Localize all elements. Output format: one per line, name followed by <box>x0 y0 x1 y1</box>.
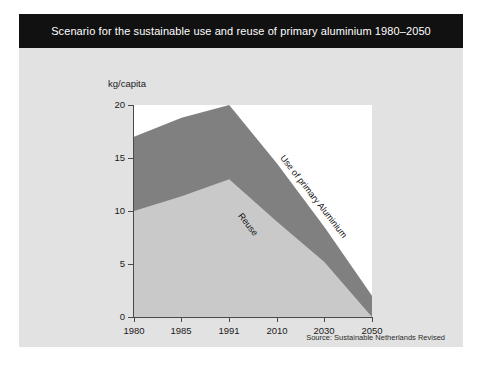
y-tick-mark-0 <box>128 317 133 318</box>
y-tick-mark-15 <box>128 158 133 159</box>
area-chart-svg <box>134 105 372 317</box>
x-axis-line <box>133 317 373 318</box>
x-tick-label-1991: 1991 <box>209 325 249 336</box>
y-tick-label-15: 15 <box>99 152 125 163</box>
x-tick-label-1980: 1980 <box>114 325 154 336</box>
x-tick-label-1985: 1985 <box>161 325 201 336</box>
y-axis-title: kg/capita <box>108 78 146 89</box>
page-title: Scenario for the sustainable use and reu… <box>51 25 431 37</box>
figure-card: Scenario for the sustainable use and reu… <box>19 14 463 347</box>
x-tick-mark-1991 <box>229 317 230 322</box>
x-tick-mark-2010 <box>277 317 278 322</box>
y-axis-line <box>133 105 134 318</box>
x-tick-label-2010: 2010 <box>257 325 297 336</box>
source-note: Source: Sustainable Netherlands Revised <box>306 333 445 342</box>
x-tick-mark-2030 <box>324 317 325 322</box>
chart-title-bar: Scenario for the sustainable use and reu… <box>19 14 463 48</box>
plot-area: Use of primary Aluminium Reuse <box>134 105 372 317</box>
chart-region: kg/capita Use of primary Aluminium Reuse… <box>19 48 463 347</box>
y-tick-mark-10 <box>128 211 133 212</box>
y-tick-label-10: 10 <box>99 205 125 216</box>
y-tick-label-0: 0 <box>99 311 125 322</box>
x-tick-mark-2050 <box>372 317 373 322</box>
y-tick-mark-20 <box>128 105 133 106</box>
x-tick-mark-1985 <box>181 317 182 322</box>
y-tick-label-5: 5 <box>99 258 125 269</box>
y-tick-mark-5 <box>128 264 133 265</box>
x-tick-mark-1980 <box>134 317 135 322</box>
y-tick-label-20: 20 <box>99 99 125 110</box>
